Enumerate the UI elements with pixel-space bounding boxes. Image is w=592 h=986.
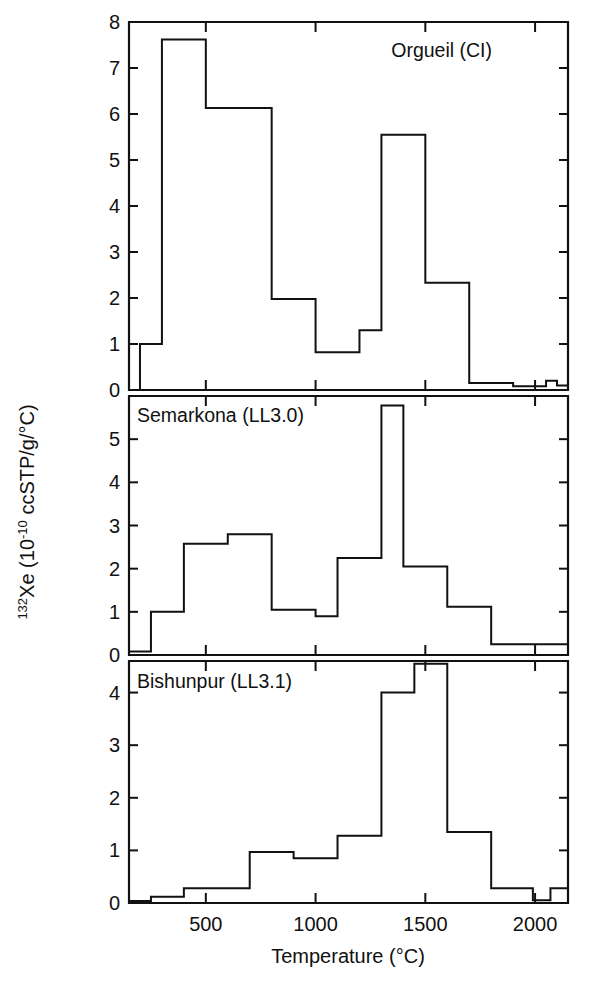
y-axis-tick-label: 0 (109, 379, 120, 401)
chart-background (0, 0, 592, 986)
y-axis-tick-label: 1 (109, 601, 120, 623)
y-axis-tick-label: 8 (109, 11, 120, 33)
y-axis-title: 132Xe (10-10 ccSTP/g/°C) (15, 404, 38, 619)
y-axis-tick-label: 3 (109, 734, 120, 756)
panel-title-middle: Semarkona (LL3.0) (137, 404, 304, 426)
y-axis-tick-label: 5 (109, 428, 120, 450)
y-axis-tick-label: 0 (109, 892, 120, 914)
y-axis-title-part-a: Xe (10 (16, 539, 38, 598)
y-axis-tick-label: 7 (109, 57, 120, 79)
x-axis-tick-label: 500 (189, 913, 222, 935)
y-axis-tick-label: 0 (109, 644, 120, 666)
panel-title-bottom: Bishunpur (LL3.1) (137, 670, 292, 692)
y-axis-tick-label: 1 (109, 333, 120, 355)
multipanel-chart: 132Xe (10-10 ccSTP/g/°C) 012345678Orguei… (0, 0, 592, 986)
x-axis-tick-label: 1500 (403, 913, 448, 935)
y-axis-title-part-b: ccSTP/g/°C) (16, 404, 38, 520)
y-axis-exponent-superscript: -10 (15, 520, 30, 539)
y-axis-tick-label: 3 (109, 515, 120, 537)
panel-title-top: Orgueil (CI) (391, 39, 492, 61)
y-axis-tick-label: 3 (109, 241, 120, 263)
y-axis-tick-label: 4 (109, 682, 120, 704)
x-axis-tick-label: 2000 (513, 913, 558, 935)
x-axis-title: Temperature (°C) (271, 945, 425, 967)
y-axis-tick-label: 2 (109, 558, 120, 580)
figure-container: 132Xe (10-10 ccSTP/g/°C) 012345678Orguei… (0, 0, 592, 986)
y-axis-tick-label: 2 (109, 787, 120, 809)
y-axis-tick-label: 6 (109, 103, 120, 125)
y-axis-tick-label: 1 (109, 839, 120, 861)
y-axis-tick-label: 4 (109, 195, 120, 217)
y-axis-isotope-superscript: 132 (15, 598, 30, 620)
x-axis-tick-label: 1000 (293, 913, 338, 935)
svg-text:132Xe (10-10 ccSTP/g/°C): 132Xe (10-10 ccSTP/g/°C) (15, 404, 38, 619)
y-axis-tick-label: 4 (109, 471, 120, 493)
y-axis-tick-label: 2 (109, 287, 120, 309)
y-axis-tick-label: 5 (109, 149, 120, 171)
